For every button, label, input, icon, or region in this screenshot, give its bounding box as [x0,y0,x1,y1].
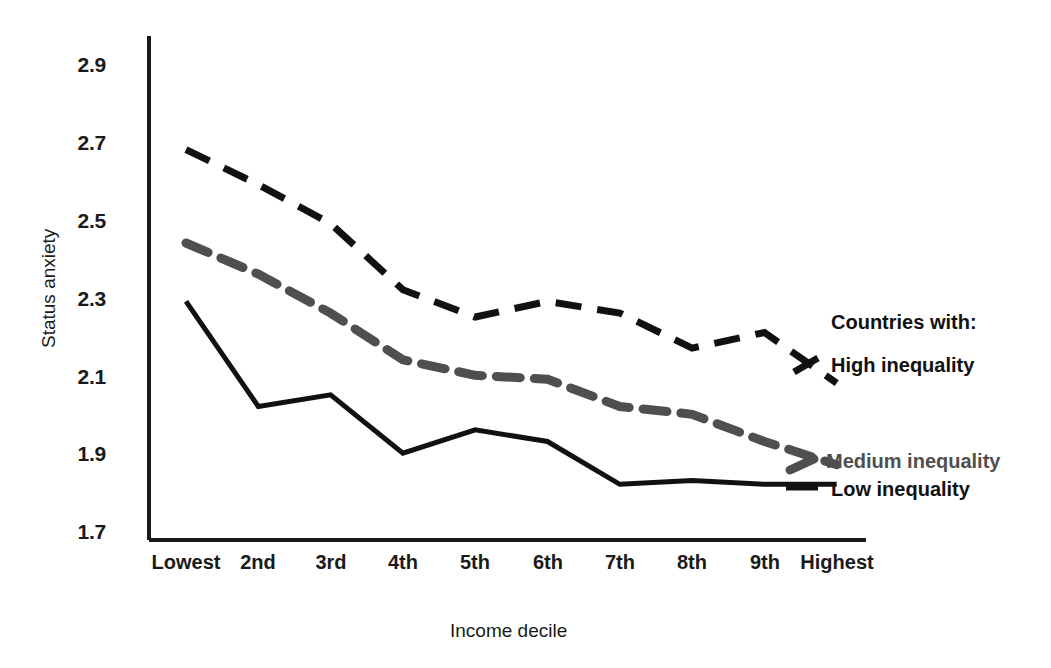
xtick-label-lowest: Lowest [152,551,221,574]
ytick-label-2-5: 2.5 [60,209,106,233]
xtick-label-9th: 9th [750,551,780,574]
xtick-label-8th: 8th [677,551,707,574]
series-line-high-inequality [186,150,837,384]
ytick-label-2-9: 2.9 [60,53,106,77]
x-axis-title: Income decile [450,620,567,642]
legend-label-medium-inequality: Medium inequality [826,450,1000,473]
legend-swatch-medium-icon [790,459,814,470]
y-axis-title: Status anxiety [38,229,60,348]
legend-heading: Countries with: [831,311,977,334]
series-line-medium-inequality [186,243,837,465]
xtick-label-6th: 6th [533,551,563,574]
chart-container: 2.9 2.7 2.5 2.3 2.1 1.9 1.7 Lowest 2nd 3… [0,0,1051,668]
legend-label-high-inequality: High inequality [831,354,974,377]
ytick-label-2-1: 2.1 [60,365,106,389]
ytick-label-2-7: 2.7 [60,131,106,155]
xtick-label-2nd: 2nd [240,551,276,574]
series-line-low-inequality [186,301,837,484]
ytick-label-1-7: 1.7 [60,520,106,544]
ytick-label-2-3: 2.3 [60,287,106,311]
xtick-label-5th: 5th [460,551,490,574]
xtick-label-4th: 4th [388,551,418,574]
legend-label-low-inequality: Low inequality [831,478,970,501]
xtick-label-highest: Highest [800,551,873,574]
xtick-label-3rd: 3rd [315,551,346,574]
xtick-label-7th: 7th [605,551,635,574]
ytick-label-1-9: 1.9 [60,442,106,466]
